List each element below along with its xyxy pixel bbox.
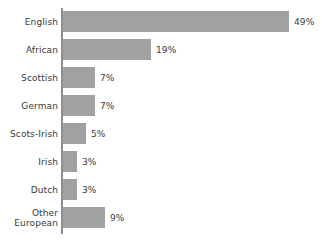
bar-value-label: 49%	[294, 8, 314, 36]
bar-chart: English49%African19%Scottish7%German7%Sc…	[0, 0, 326, 241]
bar-row: African19%	[0, 36, 326, 64]
bar	[63, 39, 151, 60]
bar-value-label: 19%	[156, 36, 176, 64]
category-label: African	[2, 36, 58, 64]
category-label: German	[2, 92, 58, 120]
bar	[63, 207, 105, 228]
category-label: Scots-Irish	[2, 120, 58, 148]
bar	[63, 67, 95, 88]
bar	[63, 11, 289, 32]
category-label: Irish	[2, 148, 58, 176]
category-label: English	[2, 8, 58, 36]
bar-value-label: 7%	[100, 64, 114, 92]
bar	[63, 179, 77, 200]
bar-row: Scottish7%	[0, 64, 326, 92]
category-label: Dutch	[2, 176, 58, 204]
category-label: Scottish	[2, 64, 58, 92]
bar-value-label: 7%	[100, 92, 114, 120]
bar-row: Irish3%	[0, 148, 326, 176]
bar-value-label: 3%	[82, 148, 96, 176]
bar-row: English49%	[0, 8, 326, 36]
bar-row: Other European9%	[0, 204, 326, 232]
bar-row: Dutch3%	[0, 176, 326, 204]
bar-row: Scots-Irish5%	[0, 120, 326, 148]
bar-value-label: 9%	[110, 204, 124, 232]
category-label: Other European	[2, 204, 58, 232]
bar	[63, 95, 95, 116]
bar-value-label: 5%	[91, 120, 105, 148]
bar	[63, 151, 77, 172]
bar-row: German7%	[0, 92, 326, 120]
bar-value-label: 3%	[82, 176, 96, 204]
bar	[63, 123, 86, 144]
